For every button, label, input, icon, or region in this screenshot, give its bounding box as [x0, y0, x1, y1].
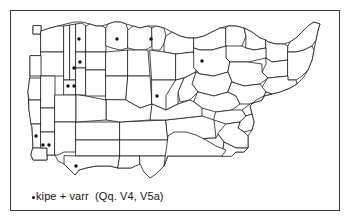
- region-strip-8: [76, 68, 86, 95]
- region-s-12: [118, 156, 140, 168]
- region-w-6: [41, 108, 55, 132]
- marker-dot: [72, 66, 75, 69]
- marker-dot: [74, 164, 77, 167]
- region-nc-12: [150, 50, 176, 80]
- caption-bullet-icon: [32, 196, 35, 199]
- region-ne-3: [244, 28, 266, 50]
- region-w-1: [28, 78, 41, 100]
- marker-dot: [200, 59, 203, 62]
- region-ne-4: [266, 40, 288, 62]
- region-strip-2: [70, 24, 76, 80]
- region-nw-3: [41, 52, 64, 76]
- region-nc-6: [86, 52, 106, 70]
- region-ne-7: [194, 46, 230, 76]
- region-s-13: [140, 156, 168, 178]
- region-w-5: [41, 76, 55, 108]
- region-strip-1: [64, 25, 70, 80]
- marker-dot: [72, 84, 75, 87]
- region-nc-2: [106, 22, 128, 50]
- marker-dot: [149, 37, 152, 40]
- region-nw-2: [41, 26, 64, 52]
- region-s-11: [64, 156, 120, 175]
- figure-root: kipe + varr (Qq. V4, V5a): [0, 0, 349, 221]
- region-s-8: [120, 140, 168, 156]
- region-nc-3: [128, 26, 152, 50]
- region-w-2: [29, 100, 41, 124]
- marker-dot: [115, 37, 118, 40]
- region-s-1: [76, 122, 120, 140]
- marker-dot: [47, 143, 50, 146]
- region-strip-5: [55, 122, 76, 155]
- region-nc-8: [106, 50, 128, 76]
- region-nc-5: [164, 32, 194, 54]
- region-strip-6: [76, 23, 86, 52]
- region-nc-1: [86, 24, 106, 52]
- region-s-7: [76, 140, 120, 156]
- region-nc-7: [86, 70, 106, 96]
- region-nw-4: [30, 56, 41, 76]
- marker-dot: [77, 37, 80, 40]
- region-nc-9: [106, 76, 128, 100]
- region-nw-1: [33, 26, 41, 34]
- map-drawing: [0, 0, 349, 221]
- region-ne-1: [194, 28, 226, 50]
- marker-dot: [78, 60, 81, 63]
- region-strip-4: [55, 95, 76, 122]
- marker-dot: [34, 134, 37, 137]
- region-s-6: [76, 95, 106, 122]
- region-strip-7: [76, 52, 86, 68]
- region-s-2: [120, 120, 168, 140]
- marker-dot: [41, 143, 44, 146]
- region-nc-10: [128, 50, 150, 76]
- region-w-4: [31, 148, 47, 160]
- marker-dot: [66, 84, 69, 87]
- map-caption: kipe + varr (Qq. V4, V5a): [36, 190, 316, 206]
- marker-dot: [155, 94, 158, 97]
- region-ne-5: [288, 22, 320, 52]
- map-region-outlines: [28, 22, 320, 178]
